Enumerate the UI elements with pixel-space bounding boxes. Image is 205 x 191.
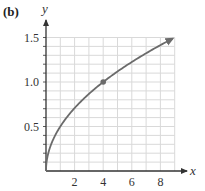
chart: (b) x y 2468 0.51.01.5 <box>0 0 205 191</box>
y-tick-label: 1.0 <box>24 75 39 89</box>
highlighted-point <box>100 79 106 85</box>
x-tick-label: 6 <box>129 175 135 189</box>
x-axis-label: x <box>189 163 196 178</box>
x-tick-labels: 2468 <box>72 175 164 189</box>
y-tick-labels: 0.51.01.5 <box>24 31 39 134</box>
x-tick-label: 4 <box>100 175 106 189</box>
x-tick-label: 8 <box>157 175 163 189</box>
panel-label: (b) <box>3 4 19 19</box>
curve-line <box>46 39 173 171</box>
grid <box>46 38 175 172</box>
y-tick-label: 0.5 <box>24 120 39 134</box>
y-tick-label: 1.5 <box>24 31 39 45</box>
y-axis-label: y <box>40 1 48 16</box>
x-tick-label: 2 <box>72 175 78 189</box>
